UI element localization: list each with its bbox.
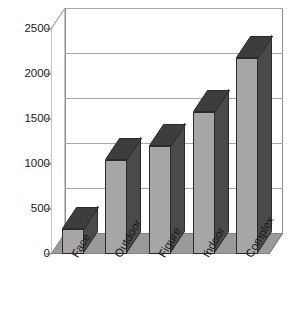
bar-outdoor	[105, 8, 127, 254]
bar-figure	[149, 8, 171, 254]
y-axis-tick-label: 1000	[6, 158, 50, 170]
bar-top-face	[105, 138, 143, 161]
bar-top-face	[236, 36, 274, 59]
y-axis: 05001000150020002500	[0, 0, 50, 320]
bar-top-face	[149, 124, 187, 147]
bar-top-face	[193, 90, 231, 113]
bar-top-face	[62, 207, 100, 230]
y-axis-tick-label: 500	[6, 203, 50, 215]
bar-complex	[236, 8, 258, 254]
bar-indoor	[193, 8, 215, 254]
x-axis: FaceOutdoorFigureIndoorComplex	[51, 254, 289, 320]
plot-area	[51, 8, 283, 254]
y-axis-tick-label: 1500	[6, 113, 50, 125]
bar-face	[62, 8, 84, 254]
bar-front-face	[236, 58, 258, 254]
y-axis-tick-label: 2000	[6, 68, 50, 80]
y-axis-tick-label: 0	[6, 248, 50, 260]
bar-chart: 05001000150020002500 FaceOutdoorFigureIn…	[0, 0, 289, 320]
y-axis-tick-label: 2500	[6, 23, 50, 35]
